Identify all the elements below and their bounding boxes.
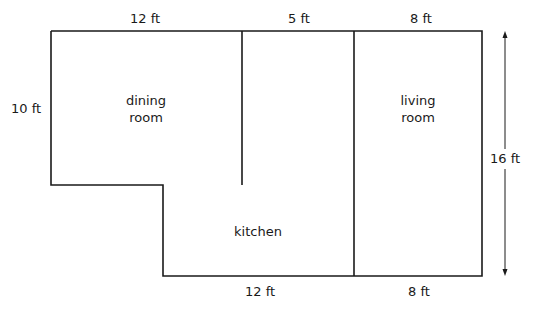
dim-top-living: 8 ft <box>410 11 432 27</box>
room-label-living: living room <box>378 92 458 126</box>
room-name-line2: room <box>378 109 458 126</box>
room-name-line2: room <box>106 109 186 126</box>
dim-top-dining: 12 ft <box>130 11 160 27</box>
dim-bottom-living: 8 ft <box>408 284 430 300</box>
dim-left-dining: 10 ft <box>11 101 41 117</box>
dim-right-total: 16 ft <box>490 149 520 169</box>
floor-plan-drawing <box>0 0 534 309</box>
room-name-line1: dining <box>106 92 186 109</box>
room-name-line1: kitchen <box>218 223 298 240</box>
dim-bottom-kitchen: 12 ft <box>245 284 275 300</box>
room-label-kitchen: kitchen <box>218 223 298 240</box>
room-name-line1: living <box>378 92 458 109</box>
room-label-dining: dining room <box>106 92 186 126</box>
dim-top-middle: 5 ft <box>288 11 310 27</box>
